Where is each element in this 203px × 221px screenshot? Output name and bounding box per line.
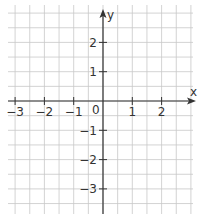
x-tick-label: 2: [158, 105, 166, 119]
x-tick-label: −1: [65, 105, 83, 119]
x-axis-label: x: [190, 85, 197, 99]
y-axis-label: y: [107, 8, 114, 22]
origin-label: 0: [92, 103, 100, 117]
x-tick-label: 1: [128, 105, 136, 119]
y-tick-label: −1: [79, 124, 97, 138]
coordinate-plane: x y 0 −3−2−112 21−1−2−3: [0, 0, 203, 221]
y-tick-label: −3: [79, 182, 97, 196]
y-tick-label: 1: [89, 65, 97, 79]
y-tick-label: 2: [89, 36, 97, 50]
y-tick-label: −2: [79, 153, 97, 167]
x-tick-label: −3: [6, 105, 24, 119]
x-tick-label: −2: [36, 105, 54, 119]
